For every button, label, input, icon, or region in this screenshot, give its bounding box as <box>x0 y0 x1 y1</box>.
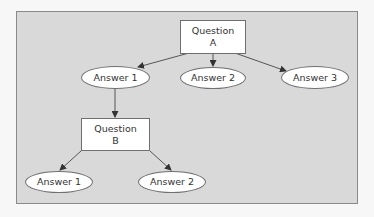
question-a-line1: Question <box>192 25 235 37</box>
a-answer-3-label: Answer 3 <box>293 72 337 84</box>
question-b-line1: Question <box>94 123 137 135</box>
question-a-line2: A <box>210 37 217 49</box>
a-answer-1-node: Answer 1 <box>81 66 150 89</box>
question-b-node: Question B <box>81 118 150 151</box>
b-answer-1-node: Answer 1 <box>25 171 93 193</box>
a-answer-1-label: Answer 1 <box>93 72 137 84</box>
a-answer-3-node: Answer 3 <box>281 66 349 89</box>
edge-qa-a1 <box>138 53 189 67</box>
question-a-node: Question A <box>180 20 246 54</box>
edge-qa-a3 <box>235 53 286 71</box>
edge-qb-b2 <box>150 151 171 170</box>
question-b-line2: B <box>112 135 119 147</box>
a-answer-2-node: Answer 2 <box>180 67 246 89</box>
b-answer-1-label: Answer 1 <box>37 176 81 188</box>
b-answer-2-node: Answer 2 <box>138 171 206 193</box>
edge-qb-b1 <box>60 151 81 170</box>
b-answer-2-label: Answer 2 <box>150 176 194 188</box>
a-answer-2-label: Answer 2 <box>191 72 235 84</box>
